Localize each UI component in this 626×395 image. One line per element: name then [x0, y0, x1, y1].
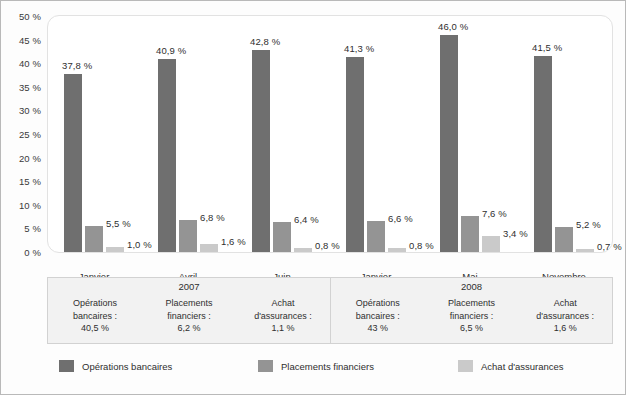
- summary-label-line: financiers :: [425, 310, 519, 323]
- summary-label-line: bancaires :: [48, 310, 142, 323]
- summary-year-block: 2007Opérationsbancaires :40,5 %Placement…: [48, 278, 330, 343]
- summary-column: Placementsfinanciers :6,5 %: [425, 296, 519, 343]
- bar: [252, 50, 270, 252]
- bar-value-label: 41,3 %: [344, 43, 374, 54]
- legend-item[interactable]: Achat d'assurances: [458, 360, 564, 372]
- bars-area: 37,8 %5,5 %1,0 %40,9 %6,8 %1,6 %42,8 %6,…: [48, 16, 612, 252]
- bar-value-label: 46,0 %: [438, 21, 468, 32]
- summary-label-line: Placements: [142, 297, 236, 310]
- bar-group: 42,8 %6,4 %0,8 %: [236, 16, 330, 252]
- bar-value-label: 41,5 %: [532, 42, 562, 53]
- y-axis-tick-label: 0 %: [24, 247, 41, 258]
- bar: [440, 35, 458, 252]
- bar: [482, 236, 500, 252]
- summary-columns: Opérationsbancaires :43 %Placementsfinan…: [331, 296, 612, 343]
- y-axis-tick-label: 40 %: [19, 58, 41, 69]
- summary-column: Placementsfinanciers :6,2 %: [142, 296, 236, 343]
- bar: [388, 248, 406, 252]
- bar-value-label: 40,9 %: [156, 45, 186, 56]
- legend-item[interactable]: Placements financiers: [258, 360, 374, 372]
- bar: [158, 59, 176, 252]
- bar-value-label: 6,4 %: [294, 214, 319, 225]
- y-axis: 0 %5 %10 %15 %20 %25 %30 %35 %40 %45 %50…: [1, 15, 45, 253]
- chart-figure: 0 %5 %10 %15 %20 %25 %30 %35 %40 %45 %50…: [0, 0, 626, 395]
- bar-group: 41,5 %5,2 %0,7 %: [518, 16, 612, 252]
- y-axis-tick-label: 10 %: [19, 199, 41, 210]
- bar-group: 41,3 %6,6 %0,8 %: [330, 16, 424, 252]
- bar: [179, 220, 197, 252]
- y-axis-tick-label: 15 %: [19, 176, 41, 187]
- bar-value-label: 5,5 %: [106, 218, 131, 229]
- summary-label-line: d'assurances :: [236, 310, 330, 323]
- chart-legend: Opérations bancairesPlacements financier…: [47, 353, 613, 379]
- summary-label-line: Opérations: [48, 297, 142, 310]
- summary-label-line: Opérations: [331, 297, 425, 310]
- y-axis-tick-label: 5 %: [24, 223, 41, 234]
- bar-value-label: 7,6 %: [482, 208, 507, 219]
- summary-value: 40,5 %: [48, 322, 142, 335]
- bar-value-label: 0,7 %: [597, 241, 622, 252]
- bar-value-label: 6,8 %: [200, 212, 225, 223]
- legend-swatch-icon: [59, 360, 74, 372]
- summary-column: Achatd'assurances :1,6 %: [518, 296, 612, 343]
- bar-group: 40,9 %6,8 %1,6 %: [142, 16, 236, 252]
- bar: [576, 249, 594, 252]
- summary-value: 1,1 %: [236, 322, 330, 335]
- legend-label: Achat d'assurances: [481, 361, 564, 372]
- bar: [106, 247, 124, 252]
- summary-columns: Opérationsbancaires :40,5 %Placementsfin…: [48, 296, 330, 343]
- bar-group: 37,8 %5,5 %1,0 %: [48, 16, 142, 252]
- plot-area: 37,8 %5,5 %1,0 %40,9 %6,8 %1,6 %42,8 %6,…: [47, 15, 613, 253]
- summary-column: Achatd'assurances :1,1 %: [236, 296, 330, 343]
- summary-value: 43 %: [331, 322, 425, 335]
- y-axis-tick-label: 45 %: [19, 34, 41, 45]
- y-axis-tick-label: 25 %: [19, 129, 41, 140]
- legend-item[interactable]: Opérations bancaires: [59, 360, 172, 372]
- summary-value: 6,5 %: [425, 322, 519, 335]
- y-axis-tick-label: 35 %: [19, 81, 41, 92]
- summary-label-line: Achat: [236, 297, 330, 310]
- summary-table: 2007Opérationsbancaires :40,5 %Placement…: [47, 277, 613, 344]
- legend-swatch-icon: [258, 360, 273, 372]
- summary-label-line: Placements: [425, 297, 519, 310]
- bar: [64, 74, 82, 252]
- y-axis-tick-label: 20 %: [19, 152, 41, 163]
- bar: [85, 226, 103, 252]
- bar-value-label: 37,8 %: [62, 60, 92, 71]
- summary-year-label: 2008: [331, 278, 612, 296]
- bar-value-label: 6,6 %: [388, 213, 413, 224]
- summary-label-line: d'assurances :: [518, 310, 612, 323]
- bar: [555, 227, 573, 252]
- summary-label-line: Achat: [518, 297, 612, 310]
- summary-column: Opérationsbancaires :43 %: [331, 296, 425, 343]
- summary-year-block: 2008Opérationsbancaires :43 %Placementsf…: [330, 278, 612, 343]
- bar: [200, 244, 218, 252]
- legend-swatch-icon: [458, 360, 473, 372]
- legend-label: Placements financiers: [281, 361, 374, 372]
- summary-label-line: financiers :: [142, 310, 236, 323]
- bar: [294, 248, 312, 252]
- bar-value-label: 42,8 %: [250, 36, 280, 47]
- legend-label: Opérations bancaires: [82, 361, 172, 372]
- bar: [534, 56, 552, 252]
- bar-group: 46,0 %7,6 %3,4 %: [424, 16, 518, 252]
- summary-value: 1,6 %: [518, 322, 612, 335]
- summary-year-label: 2007: [48, 278, 330, 296]
- bar: [461, 216, 479, 252]
- summary-column: Opérationsbancaires :40,5 %: [48, 296, 142, 343]
- bar: [346, 57, 364, 252]
- bar-value-label: 5,2 %: [576, 219, 601, 230]
- y-axis-tick-label: 30 %: [19, 105, 41, 116]
- bar: [367, 221, 385, 252]
- bar: [273, 222, 291, 252]
- y-axis-tick-label: 50 %: [19, 11, 41, 22]
- summary-label-line: bancaires :: [331, 310, 425, 323]
- summary-value: 6,2 %: [142, 322, 236, 335]
